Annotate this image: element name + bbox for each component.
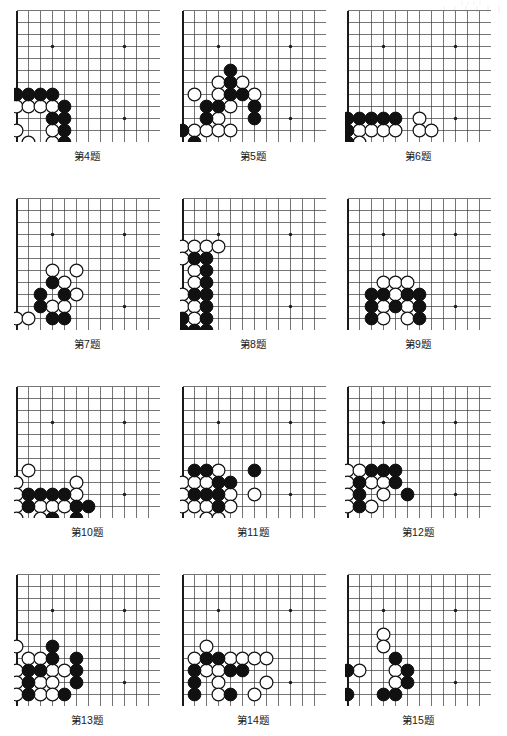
white-stone[interactable] xyxy=(14,688,23,701)
black-stone[interactable] xyxy=(188,324,201,330)
black-stone[interactable] xyxy=(188,676,201,689)
black-stone[interactable] xyxy=(58,112,71,125)
black-stone[interactable] xyxy=(212,100,225,113)
black-stone[interactable] xyxy=(224,664,237,677)
black-stone[interactable] xyxy=(58,312,71,325)
black-stone[interactable] xyxy=(345,688,354,701)
black-stone[interactable] xyxy=(70,652,83,665)
black-stone[interactable] xyxy=(180,124,189,137)
black-stone[interactable] xyxy=(224,64,237,77)
white-stone[interactable] xyxy=(180,488,189,501)
black-stone[interactable] xyxy=(200,312,213,325)
white-stone[interactable] xyxy=(377,640,390,653)
black-stone[interactable] xyxy=(70,664,83,677)
white-stone[interactable] xyxy=(248,88,261,101)
black-stone[interactable] xyxy=(413,300,426,313)
white-stone[interactable] xyxy=(34,676,47,689)
white-stone[interactable] xyxy=(260,676,273,689)
white-stone[interactable] xyxy=(46,100,59,113)
white-stone[interactable] xyxy=(46,676,59,689)
white-stone[interactable] xyxy=(236,76,249,89)
black-stone[interactable] xyxy=(224,76,237,89)
white-stone[interactable] xyxy=(212,112,225,125)
white-stone[interactable] xyxy=(212,464,225,477)
black-stone[interactable] xyxy=(377,112,390,125)
white-stone[interactable] xyxy=(22,136,35,142)
black-stone[interactable] xyxy=(22,88,35,101)
white-stone[interactable] xyxy=(70,288,83,301)
white-stone[interactable] xyxy=(46,300,59,313)
white-stone[interactable] xyxy=(212,676,225,689)
white-stone[interactable] xyxy=(212,76,225,89)
black-stone[interactable] xyxy=(22,488,35,501)
white-stone[interactable] xyxy=(22,312,35,325)
white-stone[interactable] xyxy=(345,476,354,489)
black-stone[interactable] xyxy=(389,112,402,125)
black-stone[interactable] xyxy=(46,652,59,665)
white-stone[interactable] xyxy=(14,676,23,689)
black-stone[interactable] xyxy=(224,688,237,701)
white-stone[interactable] xyxy=(200,664,213,677)
white-stone[interactable] xyxy=(200,476,213,489)
white-stone[interactable] xyxy=(70,488,83,501)
black-stone[interactable] xyxy=(200,264,213,277)
white-stone[interactable] xyxy=(377,628,390,641)
black-stone[interactable] xyxy=(212,476,225,489)
black-stone[interactable] xyxy=(70,500,83,513)
white-stone[interactable] xyxy=(200,124,213,137)
white-stone[interactable] xyxy=(401,312,414,325)
white-stone[interactable] xyxy=(188,240,201,253)
white-stone[interactable] xyxy=(212,88,225,101)
black-stone[interactable] xyxy=(365,464,378,477)
white-stone[interactable] xyxy=(365,476,378,489)
black-stone[interactable] xyxy=(200,488,213,501)
black-stone[interactable] xyxy=(58,488,71,501)
black-stone[interactable] xyxy=(188,136,201,142)
black-stone[interactable] xyxy=(413,312,426,325)
black-stone[interactable] xyxy=(200,252,213,265)
white-stone[interactable] xyxy=(353,464,366,477)
white-stone[interactable] xyxy=(200,640,213,653)
black-stone[interactable] xyxy=(188,288,201,301)
white-stone[interactable] xyxy=(34,512,47,518)
white-stone[interactable] xyxy=(377,488,390,501)
black-stone[interactable] xyxy=(401,676,414,689)
white-stone[interactable] xyxy=(14,512,23,518)
black-stone[interactable] xyxy=(46,488,59,501)
black-stone[interactable] xyxy=(188,688,201,701)
white-stone[interactable] xyxy=(377,476,390,489)
black-stone[interactable] xyxy=(345,124,354,137)
white-stone[interactable] xyxy=(70,476,83,489)
black-stone[interactable] xyxy=(22,664,35,677)
black-stone[interactable] xyxy=(34,488,47,501)
black-stone[interactable] xyxy=(58,124,71,137)
white-stone[interactable] xyxy=(200,240,213,253)
black-stone[interactable] xyxy=(224,88,237,101)
black-stone[interactable] xyxy=(200,324,213,330)
white-stone[interactable] xyxy=(365,500,378,513)
black-stone[interactable] xyxy=(46,88,59,101)
black-stone[interactable] xyxy=(389,300,402,313)
black-stone[interactable] xyxy=(14,88,23,101)
white-stone[interactable] xyxy=(212,688,225,701)
white-stone[interactable] xyxy=(188,88,201,101)
white-stone[interactable] xyxy=(248,652,261,665)
black-stone[interactable] xyxy=(377,288,390,301)
white-stone[interactable] xyxy=(377,276,390,289)
black-stone[interactable] xyxy=(236,664,249,677)
white-stone[interactable] xyxy=(212,124,225,137)
black-stone[interactable] xyxy=(365,312,378,325)
white-stone[interactable] xyxy=(200,512,213,518)
white-stone[interactable] xyxy=(46,688,59,701)
white-stone[interactable] xyxy=(401,300,414,313)
white-stone[interactable] xyxy=(188,300,201,313)
black-stone[interactable] xyxy=(200,652,213,665)
white-stone[interactable] xyxy=(353,136,366,142)
black-stone[interactable] xyxy=(389,652,402,665)
white-stone[interactable] xyxy=(389,288,402,301)
white-stone[interactable] xyxy=(58,276,71,289)
black-stone[interactable] xyxy=(345,664,354,677)
black-stone[interactable] xyxy=(353,488,366,501)
white-stone[interactable] xyxy=(34,500,47,513)
black-stone[interactable] xyxy=(188,664,201,677)
